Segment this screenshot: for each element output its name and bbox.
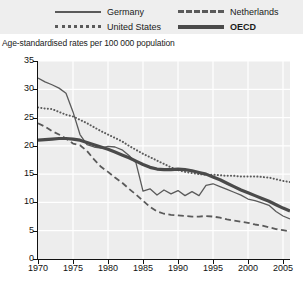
x-tick-label: 2000 <box>228 263 268 273</box>
chart-legend: Germany United States Netherlands OECD <box>0 0 303 34</box>
y-tick-mark <box>33 89 38 90</box>
legend-label-united-states: United States <box>107 22 161 32</box>
x-tick-mark <box>178 260 179 264</box>
y-tick-mark <box>33 146 38 147</box>
y-tick-mark <box>33 231 38 232</box>
chart-figure: Germany United States Netherlands OECD A… <box>0 0 303 294</box>
y-axis-labels: 05101520253035 <box>0 0 34 294</box>
y-tick-label: 35 <box>4 55 34 65</box>
series-line-germany <box>38 78 290 219</box>
x-tick-mark <box>108 260 109 264</box>
x-tick-label: 1995 <box>193 263 233 273</box>
x-tick-mark <box>38 260 39 264</box>
legend-item-germany: Germany <box>55 5 144 18</box>
x-tick-mark <box>143 260 144 264</box>
series-lines <box>38 78 290 231</box>
x-tick-mark <box>248 260 249 264</box>
x-tick-mark <box>283 260 284 264</box>
x-tick-label: 1990 <box>158 263 198 273</box>
y-tick-label: 15 <box>4 168 34 178</box>
x-tick-label: 1975 <box>53 263 93 273</box>
legend-swatch-oecd-icon <box>178 21 224 32</box>
y-tick-label: 30 <box>4 83 34 93</box>
x-tick-label: 1985 <box>123 263 163 273</box>
legend-swatch-germany-icon <box>55 6 101 17</box>
legend-swatch-united-states-icon <box>55 21 101 32</box>
legend-item-united-states: United States <box>55 20 161 33</box>
x-tick-label: 1970 <box>18 263 58 273</box>
legend-label-oecd: OECD <box>230 22 256 32</box>
legend-item-oecd: OECD <box>178 20 256 33</box>
y-tick-label: 10 <box>4 196 34 206</box>
y-tick-mark <box>33 118 38 119</box>
plot-svg <box>38 61 290 259</box>
legend-swatch-netherlands-icon <box>178 6 224 17</box>
y-tick-label: 25 <box>4 112 34 122</box>
plot-area <box>38 61 290 259</box>
y-tick-mark <box>33 202 38 203</box>
legend-item-netherlands: Netherlands <box>178 5 279 18</box>
x-axis-line <box>37 259 290 260</box>
y-tick-label: 5 <box>4 225 34 235</box>
x-tick-mark <box>213 260 214 264</box>
y-tick-label: 0 <box>4 253 34 263</box>
y-tick-label: 20 <box>4 140 34 150</box>
y-tick-mark <box>33 61 38 62</box>
x-tick-label: 1980 <box>88 263 128 273</box>
gridlines <box>38 61 290 259</box>
legend-label-germany: Germany <box>107 7 144 17</box>
legend-label-netherlands: Netherlands <box>230 7 279 17</box>
x-tick-label: 2005 <box>263 263 303 273</box>
y-tick-mark <box>33 174 38 175</box>
x-tick-mark <box>73 260 74 264</box>
